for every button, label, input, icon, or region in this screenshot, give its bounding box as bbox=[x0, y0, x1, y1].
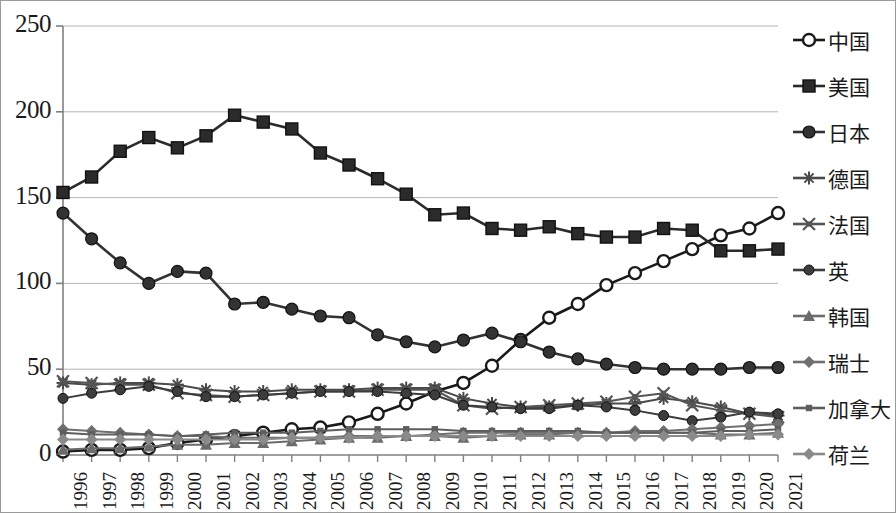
legend-label: 日本 bbox=[828, 117, 870, 147]
y-axis-tick-label: 0 bbox=[3, 439, 51, 467]
legend-item-0[interactable]: 中国 bbox=[791, 25, 870, 55]
legend-marker-icon bbox=[791, 76, 827, 96]
legend-item-4[interactable]: 法国 bbox=[791, 209, 870, 239]
x-axis-tick-label: 2002 bbox=[242, 472, 264, 510]
x-axis-tick-label: 2006 bbox=[356, 472, 378, 510]
series-2 bbox=[57, 207, 784, 375]
x-axis-tick-label: 2010 bbox=[470, 472, 492, 510]
legend-marker-icon bbox=[791, 306, 827, 326]
legend-label: 中国 bbox=[828, 25, 870, 55]
y-axis-tick-label: 100 bbox=[3, 267, 51, 295]
y-axis-tick-label: 150 bbox=[3, 182, 51, 210]
legend-label: 瑞士 bbox=[828, 347, 870, 377]
legend-marker-icon bbox=[791, 30, 827, 50]
legend-label: 德国 bbox=[828, 163, 870, 193]
x-axis-tick-label: 1996 bbox=[70, 472, 92, 510]
x-axis-tick-label: 2000 bbox=[184, 472, 206, 510]
y-axis-tick-label: 250 bbox=[3, 10, 51, 38]
legend-marker-icon bbox=[791, 168, 827, 188]
x-axis-tick-label: 2003 bbox=[270, 472, 292, 510]
legend-item-6[interactable]: 韩国 bbox=[791, 301, 870, 331]
x-axis-tick-label: 2013 bbox=[556, 472, 578, 510]
x-axis-tick-label: 2008 bbox=[413, 472, 435, 510]
x-axis-tick-label: 2018 bbox=[699, 472, 721, 510]
series-8 bbox=[60, 426, 781, 439]
x-axis-tick-label: 2001 bbox=[213, 472, 235, 510]
legend-marker-icon bbox=[791, 214, 827, 234]
legend-label: 美国 bbox=[828, 71, 870, 101]
legend-item-2[interactable]: 日本 bbox=[791, 117, 870, 147]
x-axis-tick-label: 1999 bbox=[156, 472, 178, 510]
legend-label: 法国 bbox=[828, 209, 870, 239]
legend-item-9[interactable]: 荷兰 bbox=[791, 439, 870, 469]
x-axis-tick-label: 2019 bbox=[728, 472, 750, 510]
legend-label: 韩国 bbox=[828, 301, 870, 331]
x-axis-tick-label: 2004 bbox=[299, 472, 321, 510]
x-axis-tick-label: 2017 bbox=[671, 472, 693, 510]
legend-item-7[interactable]: 瑞士 bbox=[791, 347, 870, 377]
x-axis-tick-label: 1997 bbox=[99, 472, 121, 510]
series-1 bbox=[57, 109, 784, 257]
x-axis-tick-label: 2011 bbox=[499, 473, 521, 510]
x-axis-tick-label: 2005 bbox=[327, 472, 349, 510]
legend-item-8[interactable]: 加拿大 bbox=[791, 393, 891, 423]
legend-label: 加拿大 bbox=[828, 393, 891, 423]
legend-label: 荷兰 bbox=[828, 439, 870, 469]
series-3 bbox=[57, 376, 785, 422]
chart-figure: 050100150200250 199619971998199920002001… bbox=[0, 0, 896, 513]
x-axis-tick-label: 2012 bbox=[528, 472, 550, 510]
x-axis-tick-label: 2020 bbox=[756, 472, 778, 510]
series-0 bbox=[57, 207, 784, 458]
legend-item-5[interactable]: 英 bbox=[791, 255, 849, 285]
y-axis-tick-label: 50 bbox=[3, 353, 51, 381]
legend-marker-icon bbox=[791, 444, 827, 464]
x-axis-tick-label: 2007 bbox=[385, 472, 407, 510]
legend-item-1[interactable]: 美国 bbox=[791, 71, 870, 101]
x-axis-tick-label: 2021 bbox=[785, 472, 807, 510]
legend-label: 英 bbox=[828, 255, 849, 285]
x-axis-tick-label: 2015 bbox=[613, 472, 635, 510]
x-axis-tick-label: 1998 bbox=[127, 472, 149, 510]
legend-marker-icon bbox=[791, 352, 827, 372]
legend-item-3[interactable]: 德国 bbox=[791, 163, 870, 193]
legend-marker-icon bbox=[791, 398, 827, 418]
x-axis-tick-label: 2009 bbox=[442, 472, 464, 510]
legend-marker-icon bbox=[791, 122, 827, 142]
legend-marker-icon bbox=[791, 260, 827, 280]
line-chart-plot bbox=[1, 1, 896, 513]
y-axis-tick-label: 200 bbox=[3, 96, 51, 124]
x-axis-tick-label: 2014 bbox=[585, 472, 607, 510]
x-axis-tick-label: 2016 bbox=[642, 472, 664, 510]
